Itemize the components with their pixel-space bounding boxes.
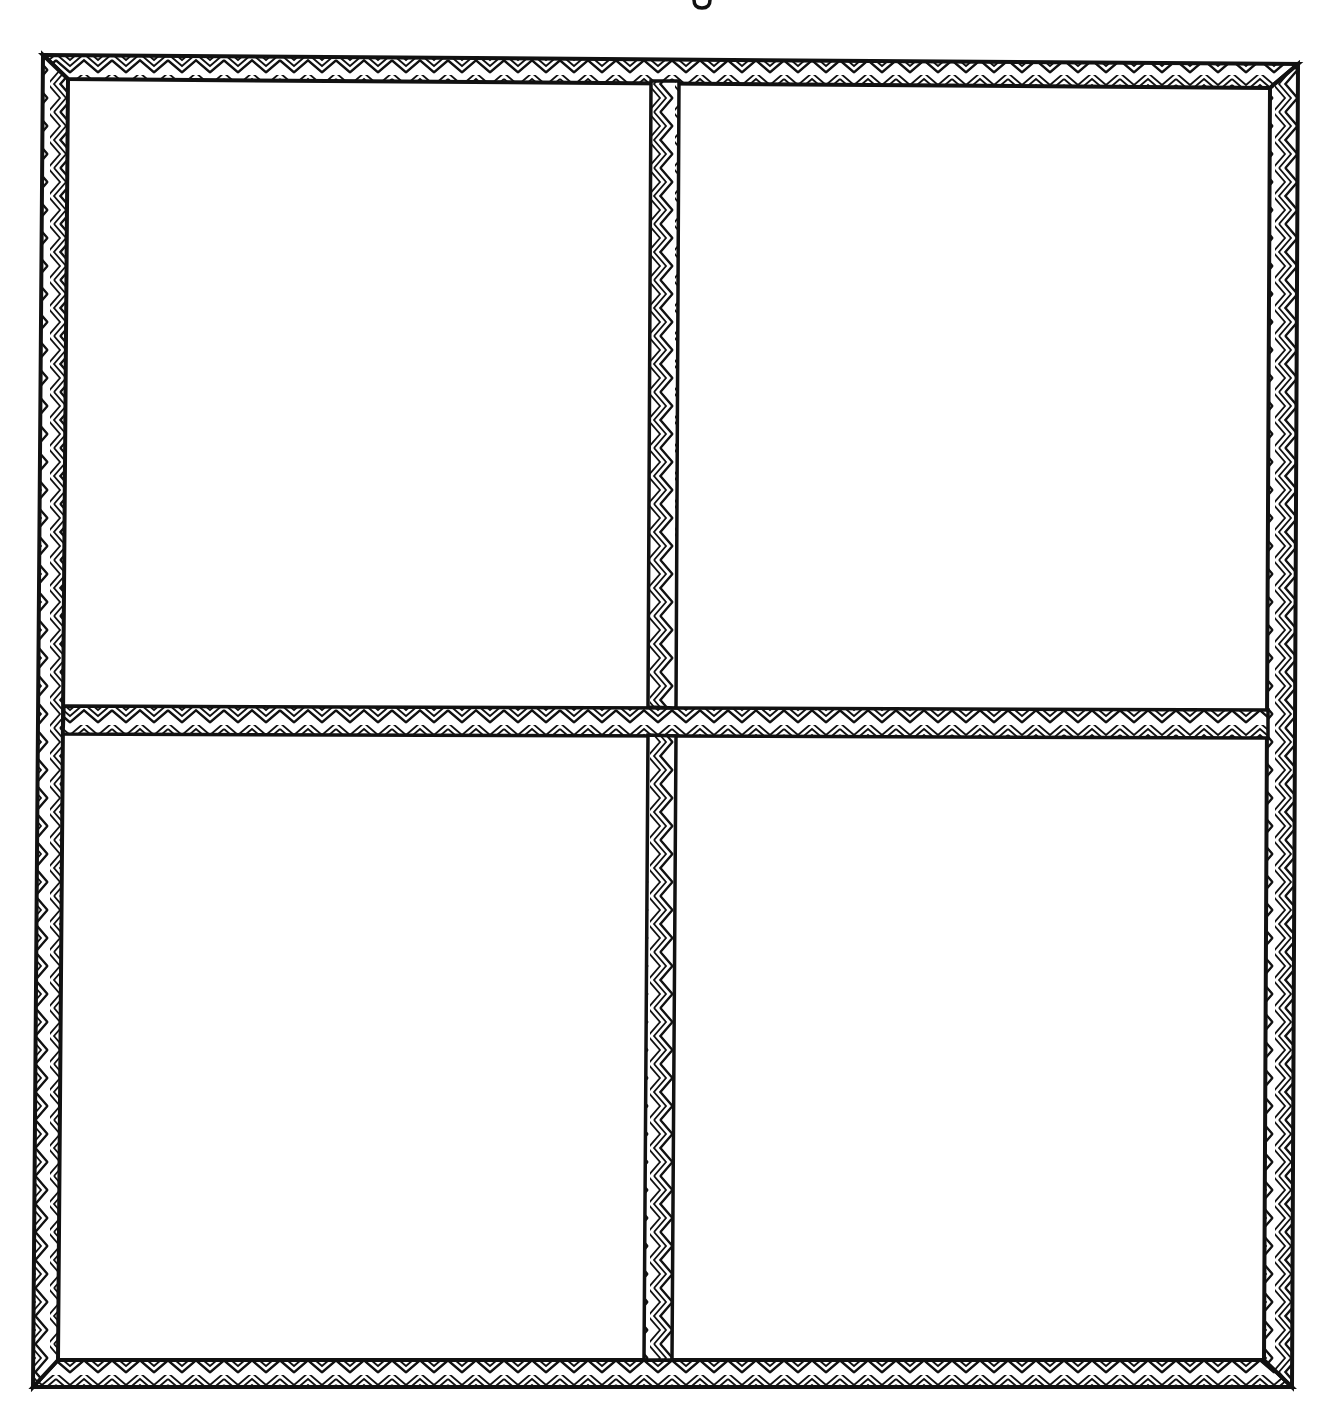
window-frame-diagram [0,0,1330,1414]
vertical-divider-upper [648,81,679,708]
frame-bottom-band [33,1360,1292,1387]
vertical-divider-lower [644,735,676,1360]
pane-bottom-left [58,734,648,1360]
title-fragment-mark [694,0,710,8]
horizontal-divider [63,706,1268,738]
pane-top-left [64,79,651,706]
pane-top-right [676,84,1270,710]
pane-bottom-right [672,736,1268,1360]
